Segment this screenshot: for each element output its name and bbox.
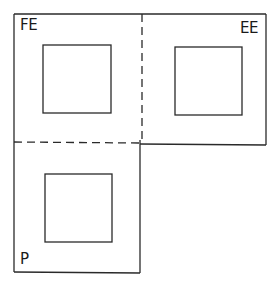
p-label: P [20,252,29,267]
ee-inner-square [175,47,242,115]
p-inner-square [45,174,112,242]
ee-bottom-edge [140,144,266,145]
diagram-canvas [0,0,280,285]
outer-outline [14,14,266,273]
horizontal-dashed-divider [14,142,140,143]
p-bottom-edge [14,272,140,273]
fe-label: FE [20,18,37,33]
fe-inner-square [43,45,111,113]
ee-label: EE [240,21,258,36]
